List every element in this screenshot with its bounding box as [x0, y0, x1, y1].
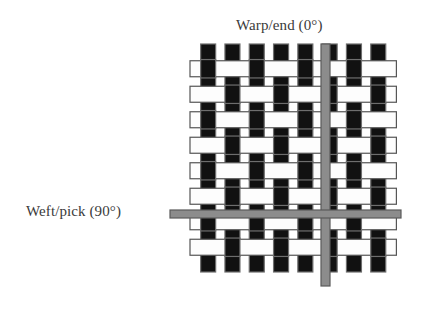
warp-float-1-5 — [225, 187, 240, 205]
warp-float-2-0 — [249, 60, 264, 78]
highlighted-warp-thread — [321, 44, 330, 286]
warp-float-7-5 — [371, 187, 386, 205]
warp-float-4-4 — [298, 162, 313, 180]
warp-float-7-3 — [371, 136, 386, 154]
warp-float-1-7 — [225, 238, 240, 256]
warp-float-4-2 — [298, 111, 313, 129]
weft-thread-5 — [190, 188, 396, 204]
weft-thread-4 — [190, 163, 396, 179]
warp-float-3-1 — [274, 85, 289, 103]
weft-thread-1 — [190, 86, 396, 102]
warp-float-7-7 — [371, 238, 386, 256]
warp-float-6-0 — [346, 60, 361, 78]
warp-float-3-7 — [274, 238, 289, 256]
warp-float-0-0 — [201, 60, 216, 78]
warp-float-1-1 — [225, 85, 240, 103]
warp-float-0-2 — [201, 111, 216, 129]
warp-float-2-2 — [249, 111, 264, 129]
warp-float-7-1 — [371, 85, 386, 103]
warp-float-0-4 — [201, 162, 216, 180]
warp-float-1-3 — [225, 136, 240, 154]
weft-thread-0 — [190, 61, 396, 77]
weft-thread-7 — [190, 239, 396, 255]
warp-float-2-4 — [249, 162, 264, 180]
weft-direction-label: Weft/pick (90°) — [26, 203, 121, 220]
weave-diagram: Warp/end (0°) Weft/pick (90°) — [0, 0, 423, 313]
weft-thread-3 — [190, 137, 396, 153]
warp-float-4-0 — [298, 60, 313, 78]
warp-float-3-5 — [274, 187, 289, 205]
warp-direction-label: Warp/end (0°) — [236, 17, 322, 34]
weave-svg-canvas — [0, 0, 423, 313]
weft-thread-2 — [190, 112, 396, 128]
warp-float-3-3 — [274, 136, 289, 154]
warp-float-6-2 — [346, 111, 361, 129]
highlighted-weft-thread — [170, 210, 401, 218]
warp-float-6-4 — [346, 162, 361, 180]
